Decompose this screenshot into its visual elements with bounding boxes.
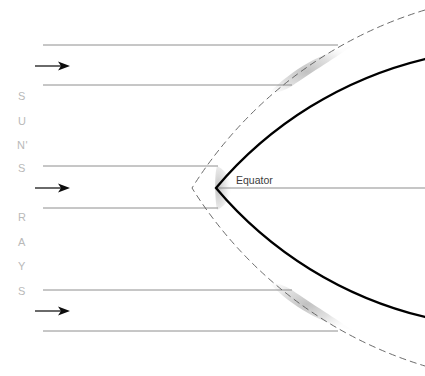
suns-rays-letter: U <box>18 115 26 127</box>
ray-arrow-equator-icon <box>35 184 70 193</box>
suns-rays-label: S U N' S R A Y S <box>17 90 28 297</box>
suns-rays-letter: R <box>18 211 26 223</box>
ray-arrow-north-icon <box>35 62 70 71</box>
suns-rays-letter: A <box>18 236 26 248</box>
ray-arrow-south-icon <box>35 307 70 316</box>
equator-label: Equator <box>236 174 273 186</box>
suns-rays-letter: S <box>18 90 26 102</box>
ray-direction-arrows-group <box>35 62 70 316</box>
suns-rays-letter: N' <box>17 139 28 151</box>
diagram-canvas: S U N' S R A Y S Equator <box>0 0 425 376</box>
suns-rays-letter: S <box>18 162 26 174</box>
sun-rays-earth-diagram: S U N' S R A Y S Equator <box>0 0 425 376</box>
suns-rays-letter: S <box>18 285 26 297</box>
suns-rays-letter: Y <box>18 260 26 272</box>
atmospheric-path-shading-north <box>270 46 352 93</box>
